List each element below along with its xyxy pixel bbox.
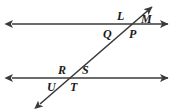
point-label-P: P: [129, 28, 136, 40]
point-label-T: T: [70, 81, 77, 93]
point-label-R: R: [58, 64, 66, 76]
geometry-diagram: L M Q P R S U T: [0, 0, 177, 112]
point-label-L: L: [117, 10, 124, 22]
transversal-line: [40, 7, 152, 104]
point-label-Q: Q: [103, 28, 112, 40]
point-label-U: U: [47, 81, 56, 93]
point-label-M: M: [141, 13, 152, 25]
point-label-S: S: [82, 64, 89, 76]
